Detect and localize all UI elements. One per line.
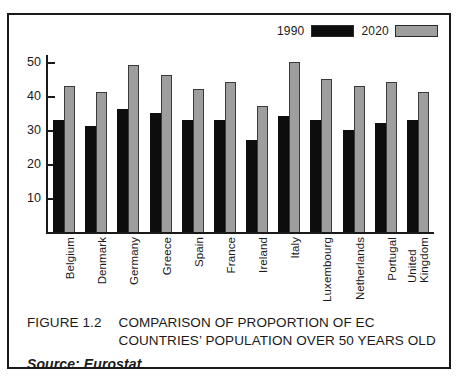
bar-group <box>370 55 402 232</box>
bar-2020 <box>354 86 365 232</box>
bar-2020 <box>386 82 397 232</box>
caption-line-2: COUNTRIES’ POPULATION OVER 50 YEARS OLD <box>119 332 436 350</box>
bar-1990 <box>343 130 354 232</box>
bar-2020 <box>225 82 236 232</box>
bar-group <box>338 55 370 232</box>
x-axis-label: Spain <box>193 237 205 267</box>
bar-group <box>305 55 337 232</box>
y-tick-label: 50 <box>27 56 41 69</box>
bar-group <box>402 55 434 232</box>
bar-group <box>273 55 305 232</box>
y-tick-label: 30 <box>27 124 41 137</box>
bar-group <box>112 55 144 232</box>
x-axis-label: Greece <box>161 237 173 275</box>
bar-1990 <box>407 120 418 232</box>
bar-2020 <box>418 92 429 232</box>
x-label-cell: Belgium <box>48 237 80 307</box>
x-label-cell: United Kingdom <box>402 237 434 307</box>
x-label-cell: Ireland <box>241 237 273 307</box>
x-axis-label: Denmark <box>96 237 108 284</box>
bar-2020 <box>128 65 139 232</box>
x-axis-label: United Kingdom <box>406 237 431 283</box>
bar-2020 <box>96 92 107 232</box>
x-axis-label: Netherlands <box>354 237 366 300</box>
bar-1990 <box>53 120 64 232</box>
bar-1990 <box>278 116 289 232</box>
x-label-cell: Netherlands <box>338 237 370 307</box>
bar-1990 <box>150 113 161 232</box>
x-label-cell: Italy <box>273 237 305 307</box>
bar-2020 <box>257 106 268 232</box>
x-axis-label: Italy <box>289 237 301 259</box>
caption-line-1: COMPARISON OF PROPORTION OF EC <box>119 314 436 332</box>
bar-1990 <box>182 120 193 232</box>
bar-group <box>145 55 177 232</box>
bar-1990 <box>246 140 257 232</box>
x-axis-line <box>46 232 434 234</box>
x-axis-label: Ireland <box>257 237 269 273</box>
bar-2020 <box>161 75 172 232</box>
x-axis-labels: BelgiumDenmarkGermanyGreeceSpainFranceIr… <box>48 237 434 307</box>
legend-label-2020: 2020 <box>362 25 390 37</box>
x-axis-label: Luxembourg <box>321 237 333 302</box>
x-label-cell: France <box>209 237 241 307</box>
bar-group <box>177 55 209 232</box>
bar-1990 <box>214 120 225 232</box>
bar-1990 <box>117 109 128 232</box>
legend-swatch-2020 <box>395 25 438 37</box>
y-tick-label: 10 <box>27 192 41 205</box>
bar-2020 <box>64 86 75 232</box>
caption-number: FIGURE 1.2 <box>27 314 102 332</box>
x-label-cell: Greece <box>145 237 177 307</box>
bar-group <box>209 55 241 232</box>
bar-group <box>80 55 112 232</box>
x-label-cell: Germany <box>112 237 144 307</box>
bar-groups <box>48 55 434 232</box>
legend-entry-2020: 2020 <box>362 25 439 37</box>
legend-label-1990: 1990 <box>277 25 305 37</box>
y-tick-label: 40 <box>27 90 41 103</box>
chart-legend: 1990 2020 <box>277 23 438 39</box>
bar-1990 <box>375 123 386 232</box>
x-label-cell: Luxembourg <box>305 237 337 307</box>
source-note: Source: Eurostat <box>27 356 141 372</box>
x-axis-label: Portugal <box>386 237 398 281</box>
x-label-cell: Denmark <box>80 237 112 307</box>
bar-2020 <box>193 89 204 232</box>
bar-2020 <box>289 62 300 232</box>
legend-swatch-1990 <box>311 25 354 37</box>
figure-frame: 1990 2020 1020304050 BelgiumDenmarkGerma… <box>7 13 451 369</box>
bar-1990 <box>85 126 96 232</box>
x-axis-label: Germany <box>128 237 140 285</box>
legend-entry-1990: 1990 <box>277 25 354 37</box>
bar-group <box>241 55 273 232</box>
bar-1990 <box>310 120 321 232</box>
y-tick-label: 20 <box>27 158 41 171</box>
bar-group <box>48 55 80 232</box>
x-label-cell: Portugal <box>370 237 402 307</box>
x-label-cell: Spain <box>177 237 209 307</box>
plot-area: 1020304050 <box>46 55 434 234</box>
bar-2020 <box>321 79 332 232</box>
figure-caption: FIGURE 1.2 COMPARISON OF PROPORTION OF E… <box>27 314 437 350</box>
x-axis-label: Belgium <box>64 237 76 279</box>
x-axis-label: France <box>225 237 237 273</box>
